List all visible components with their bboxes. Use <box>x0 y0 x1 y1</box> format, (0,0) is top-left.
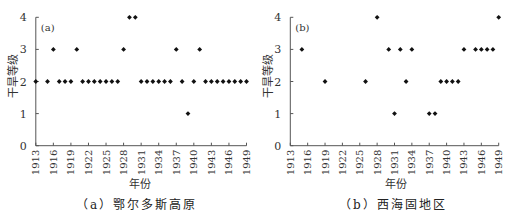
x-axis-label-b: 年份 <box>385 175 407 191</box>
x-tick-label: 1913 <box>285 150 296 175</box>
x-tick-label: 1919 <box>320 150 331 175</box>
x-tick-label: 1943 <box>206 150 217 175</box>
data-point-marker <box>299 47 304 52</box>
data-point-marker <box>375 15 380 20</box>
data-point-marker <box>215 79 220 84</box>
x-tick-label: 1940 <box>441 150 452 175</box>
data-point-marker <box>456 79 461 84</box>
data-point-marker <box>323 79 328 84</box>
data-point-marker <box>209 79 214 84</box>
data-point-marker <box>363 79 368 84</box>
x-tick-label: 1949 <box>493 150 504 175</box>
data-point-marker <box>98 79 103 84</box>
y-tick-label: 1 <box>274 108 281 121</box>
data-point-marker <box>180 79 185 84</box>
data-point-marker <box>398 47 403 52</box>
x-tick-label: 1940 <box>188 150 199 175</box>
data-point-marker <box>127 15 132 20</box>
data-point-marker <box>238 79 243 84</box>
data-point-marker <box>485 47 490 52</box>
x-tick-label: 1931 <box>389 150 400 175</box>
data-point-marker <box>479 47 484 52</box>
y-tick-label: 2 <box>274 76 281 89</box>
data-point-marker <box>450 79 455 84</box>
x-tick-label: 1916 <box>48 150 59 175</box>
data-point-marker <box>145 79 150 84</box>
chart-caption-b: （b）西海固地区 <box>339 195 447 212</box>
x-tick-label: 1937 <box>171 150 182 175</box>
data-point-marker <box>409 47 414 52</box>
x-tick-label: 1925 <box>101 150 112 175</box>
data-point-marker <box>139 79 144 84</box>
y-tick-label: 4 <box>274 11 281 24</box>
data-point-marker <box>74 47 79 52</box>
data-point-marker <box>392 111 397 116</box>
data-point-marker <box>462 47 467 52</box>
data-point-marker <box>80 79 85 84</box>
x-tick-label: 1946 <box>223 150 234 175</box>
y-tick-label: 3 <box>274 43 281 56</box>
data-point-marker <box>133 15 138 20</box>
x-tick-label: 1943 <box>458 150 469 175</box>
data-point-marker <box>197 47 202 52</box>
x-tick-label: 1922 <box>83 150 94 175</box>
x-tick-label: 1946 <box>476 150 487 175</box>
y-tick-label: 0 <box>274 140 281 153</box>
x-tick-label: 1925 <box>354 150 365 175</box>
chart-caption-a: （a）鄂尔多斯高原 <box>76 195 197 212</box>
x-tick-label: 1928 <box>118 150 129 175</box>
data-point-marker <box>496 15 501 20</box>
data-point-marker <box>444 79 449 84</box>
data-point-marker <box>45 79 50 84</box>
data-point-marker <box>92 79 97 84</box>
data-point-marker <box>438 79 443 84</box>
chart-panel-b: 0123419131916191919221925192819311934193… <box>257 0 514 219</box>
data-point-marker <box>227 79 232 84</box>
panel-tag: (b) <box>295 22 309 33</box>
x-tick-label: 1934 <box>406 150 417 175</box>
x-tick-label: 1949 <box>241 150 252 175</box>
panel-tag: (a) <box>41 22 55 33</box>
data-point-marker <box>191 79 196 84</box>
data-point-marker <box>115 79 120 84</box>
data-point-marker <box>174 47 179 52</box>
x-axis-label-a: 年份 <box>129 175 151 191</box>
x-tick-label: 1919 <box>65 150 76 175</box>
data-point-marker <box>63 79 68 84</box>
data-point-marker <box>69 79 74 84</box>
y-tick-label: 1 <box>20 108 27 121</box>
data-point-marker <box>427 111 432 116</box>
y-axis-label-a: 干旱等级 <box>4 58 16 98</box>
x-tick-label: 1937 <box>424 150 435 175</box>
data-point-marker <box>244 79 249 84</box>
data-point-marker <box>104 79 109 84</box>
chart-panel-a: 0123419131916191919221925192819311934193… <box>0 0 257 219</box>
data-point-marker <box>150 79 155 84</box>
data-point-marker <box>109 79 114 84</box>
data-point-marker <box>168 79 173 84</box>
x-tick-label: 1934 <box>153 150 164 175</box>
data-point-marker <box>221 79 226 84</box>
x-tick-label: 1913 <box>30 150 41 175</box>
data-point-marker <box>386 47 391 52</box>
x-tick-label: 1922 <box>337 150 348 175</box>
data-point-marker <box>473 47 478 52</box>
data-point-marker <box>156 79 161 84</box>
data-point-marker <box>491 47 496 52</box>
y-tick-label: 3 <box>20 43 27 56</box>
y-tick-label: 0 <box>20 140 27 153</box>
data-point-marker <box>186 111 191 116</box>
y-axis-label-b: 干旱等级 <box>259 58 271 98</box>
x-tick-label: 1928 <box>372 150 383 175</box>
data-point-marker <box>33 79 38 84</box>
y-tick-label: 2 <box>20 76 27 89</box>
data-point-marker <box>162 79 167 84</box>
data-point-marker <box>121 47 126 52</box>
data-point-marker <box>57 79 62 84</box>
data-point-marker <box>203 79 208 84</box>
data-point-marker <box>51 47 56 52</box>
data-point-marker <box>86 79 91 84</box>
x-tick-label: 1931 <box>136 150 147 175</box>
y-tick-label: 4 <box>20 11 27 24</box>
data-point-marker <box>433 111 438 116</box>
